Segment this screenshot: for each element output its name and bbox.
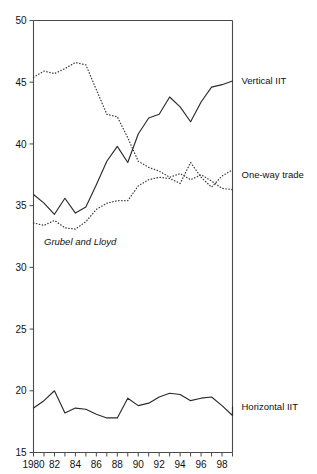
x-tick-label: 88 — [112, 459, 124, 470]
series-line-one-way-trade — [34, 162, 233, 229]
x-tick-label: 82 — [49, 459, 61, 470]
series-line-grubel-and-lloyd — [34, 62, 233, 189]
chart-figure: 1520253035404550 1980828486889092949698 … — [0, 0, 317, 474]
y-axis-ticks: 1520253035404550 — [15, 15, 33, 458]
line-chart: 1520253035404550 1980828486889092949698 … — [0, 0, 317, 474]
series-labels: Vertical IITGrubel and LloydOne-way trad… — [44, 75, 304, 412]
y-tick-label: 25 — [15, 324, 27, 335]
y-tick-label: 35 — [15, 200, 27, 211]
x-axis-ticks: 1980828486889092949698 — [22, 453, 232, 470]
series-label-vertical-iit: Vertical IIT — [242, 75, 287, 86]
series-label-one-way-trade: One-way trade — [242, 169, 304, 180]
annotation-grubel-and-lloyd: Grubel and Lloyd — [44, 236, 117, 247]
x-tick-label: 1980 — [22, 459, 45, 470]
y-tick-label: 45 — [15, 77, 27, 88]
series-line-vertical-iit — [34, 81, 233, 214]
y-tick-label: 20 — [15, 385, 27, 396]
y-tick-label: 40 — [15, 139, 27, 150]
series-label-horizontal-iit: Horizontal IIT — [242, 401, 299, 412]
x-tick-label: 96 — [196, 459, 208, 470]
x-tick-label: 84 — [70, 459, 82, 470]
x-tick-label: 98 — [216, 459, 228, 470]
x-tick-label: 92 — [154, 459, 166, 470]
x-tick-label: 94 — [175, 459, 187, 470]
series-line-horizontal-iit — [34, 391, 233, 418]
y-tick-label: 50 — [15, 15, 27, 26]
y-tick-label: 30 — [15, 262, 27, 273]
x-tick-label: 86 — [91, 459, 103, 470]
x-tick-label: 90 — [133, 459, 145, 470]
y-tick-label: 15 — [15, 447, 27, 458]
